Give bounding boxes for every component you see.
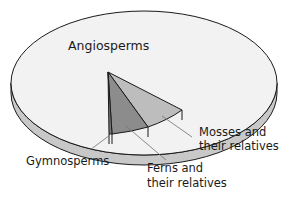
label-ferns-line2: their relatives — [147, 177, 227, 190]
label-mosses-line2: their relatives — [199, 140, 279, 153]
label-angiosperms: Angiosperms — [68, 39, 149, 52]
label-gymnosperms: Gymnosperms — [26, 155, 109, 168]
label-ferns-line1: Ferns and — [147, 162, 203, 175]
pie-chart — [0, 0, 288, 199]
label-mosses-line1: Mosses and — [199, 126, 266, 139]
